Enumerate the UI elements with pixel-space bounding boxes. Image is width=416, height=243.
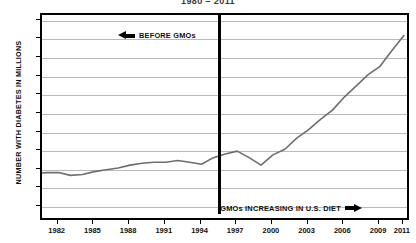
x-axis-tick-label: 1982 — [37, 226, 77, 235]
annotation-gmos-increasing-label: GMOs INCREASING IN U.S. DIET — [220, 204, 341, 213]
chart-figure: 1980 – 2011 NUMBER WITH DIABETES IN MILL… — [0, 0, 416, 243]
x-axis-tick-mark — [342, 220, 343, 224]
x-axis-tick-label: 2003 — [287, 226, 327, 235]
gmo-introduction-marker-line — [218, 14, 221, 214]
x-axis-tick-mark — [378, 220, 379, 224]
y-axis-title: NUMBER WITH DIABETES IN MILLIONS — [14, 18, 23, 208]
x-axis-tick-mark — [164, 220, 165, 224]
annotation-gmos-increasing: GMOs INCREASING IN U.S. DIET — [220, 204, 362, 213]
chart-title: 1980 – 2011 — [0, 0, 416, 6]
x-axis-tick-label: 2000 — [251, 226, 291, 235]
annotation-before-gmos-label: BEFORE GMOs — [139, 31, 196, 40]
arrow-right-icon — [345, 204, 362, 213]
x-axis-tick-label: 1991 — [144, 226, 184, 235]
x-axis-tick-label: 1994 — [180, 226, 220, 235]
data-series-line — [42, 15, 407, 218]
x-axis-tick-mark — [200, 220, 201, 224]
plot-inner — [42, 15, 407, 218]
x-axis-tick-label: 1997 — [215, 226, 255, 235]
x-axis-tick-label: 2011 — [382, 226, 416, 235]
x-axis-tick-mark — [235, 220, 236, 224]
x-axis-tick-mark — [271, 220, 272, 224]
x-axis-tick-mark — [307, 220, 308, 224]
x-axis-tick-mark — [128, 220, 129, 224]
x-axis-tick-mark — [92, 220, 93, 224]
plot-area — [40, 13, 409, 220]
x-axis-tick-mark — [57, 220, 58, 224]
x-axis-tick-label: 1988 — [108, 226, 148, 235]
annotation-before-gmos: BEFORE GMOs — [118, 31, 196, 40]
arrow-left-icon — [118, 31, 135, 40]
x-axis-tick-mark — [402, 220, 403, 224]
x-axis-tick-label: 2006 — [322, 226, 362, 235]
x-axis-tick-label: 1985 — [72, 226, 112, 235]
